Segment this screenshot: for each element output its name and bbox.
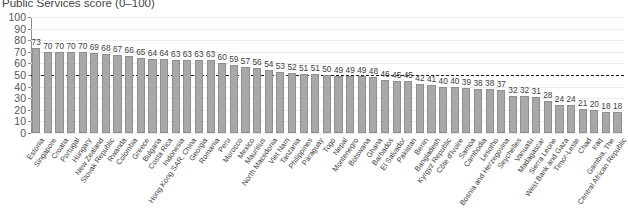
y-tick-label-20: 20 [2,104,26,116]
bar[interactable] [544,101,552,133]
bar[interactable] [416,84,424,133]
bar[interactable] [474,89,482,133]
bar[interactable] [113,55,121,133]
bar[interactable] [346,76,354,133]
bar[interactable] [183,60,191,133]
y-tick-label-70: 70 [2,46,26,58]
bar[interactable] [102,54,110,133]
bar[interactable] [358,76,366,133]
y-tick-label-10: 10 [2,115,26,127]
bar[interactable] [288,73,296,133]
y-tick-label-50: 50 [2,69,26,81]
bar[interactable] [241,67,249,133]
bar-series: 7370707070696867666564646363636360595756… [31,17,624,133]
x-axis-category-labels: EstoniaSingaporeCroatiaPortugalHungaryNe… [31,136,624,222]
bar[interactable] [613,112,621,133]
bar[interactable] [195,60,203,133]
bar[interactable] [334,76,342,133]
bar[interactable] [439,87,447,133]
bar[interactable] [567,105,575,133]
bar[interactable] [160,59,168,133]
bar[interactable] [218,63,226,133]
bar[interactable] [427,85,435,133]
bar[interactable] [509,96,517,133]
chart-title: Public Services score (0–100) [2,0,155,9]
plot-area: 0102030405060708090100 73707070706968676… [31,17,624,133]
bar[interactable] [602,112,610,133]
bar[interactable] [44,52,52,133]
bar[interactable] [125,56,133,133]
bar[interactable] [300,74,308,133]
bar[interactable] [579,109,587,133]
bar[interactable] [520,96,528,133]
bar[interactable] [265,70,273,133]
bar[interactable] [55,52,63,133]
bar[interactable] [207,60,215,133]
bar[interactable] [90,53,98,133]
bar[interactable] [148,59,156,133]
bar[interactable] [497,90,505,133]
bar[interactable] [590,110,598,133]
bar[interactable] [486,89,494,133]
bar[interactable] [369,77,377,133]
y-tick-label-30: 30 [2,92,26,104]
bar-value-label: 18 [607,101,628,111]
bar[interactable] [276,72,284,133]
public-services-score-chart: Public Services score (0–100) 0102030405… [0,0,628,223]
bar[interactable] [79,52,87,133]
bar[interactable] [137,58,145,133]
bar[interactable] [311,74,319,133]
bar[interactable] [462,88,470,133]
bar[interactable] [393,81,401,133]
bar[interactable] [381,80,389,133]
bar[interactable] [532,97,540,133]
bar[interactable] [230,65,238,133]
bar[interactable] [67,52,75,133]
bar[interactable] [404,81,412,133]
gridline-0 [31,133,624,134]
y-tick-label-60: 60 [2,57,26,69]
bar[interactable] [323,75,331,133]
bar[interactable] [555,105,563,133]
y-tick-label-80: 80 [2,34,26,46]
bar[interactable] [32,48,40,133]
bar[interactable] [451,87,459,133]
y-tick-mark-0 [28,133,31,134]
bar[interactable] [172,60,180,133]
y-tick-label-0: 0 [2,127,26,139]
bar[interactable] [253,68,261,133]
y-tick-label-40: 40 [2,81,26,93]
y-tick-label-90: 90 [2,23,26,35]
y-tick-label-100: 100 [2,11,26,23]
